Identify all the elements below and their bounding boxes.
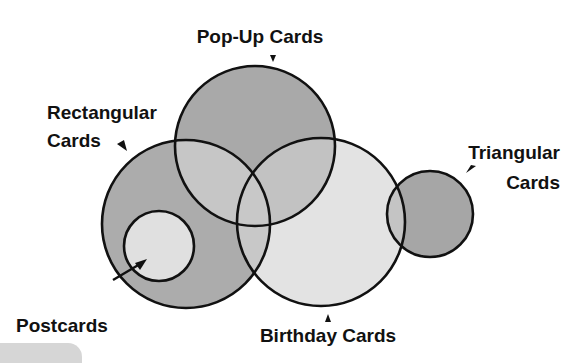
rectangular-cards-label-line2: Cards [47,130,101,152]
rectangular-pointer-icon [117,140,127,151]
birthday-pointer-icon [325,314,331,322]
birthday-cards-label: Birthday Cards [238,325,418,347]
rectangular-cards-label-line1: Rectangular [47,102,157,124]
postcards-label: Postcards [16,315,108,337]
triangular-cards-label-line1: Triangular [430,142,560,164]
popup-pointer-icon [270,55,276,62]
popup-cards-label: Pop-Up Cards [180,26,340,48]
triangular-cards-label-line2: Cards [430,172,560,194]
page-corner-tab [0,343,82,363]
